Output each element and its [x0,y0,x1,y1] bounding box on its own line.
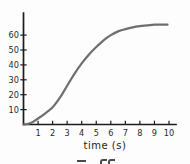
x-tick-label: 10 [164,128,174,138]
y-tick-label: 40 [9,60,19,70]
x-tick-label: 4 [79,128,84,138]
cropped-caption-fragment [77,160,86,162]
data-curve [24,25,168,125]
x-tick-label: 6 [108,128,113,138]
x-tick-label: 8 [137,128,142,138]
cropped-caption-fragment [100,159,107,164]
y-tick-label: 60 [9,30,19,40]
axes [24,13,177,125]
x-tick-label: 2 [50,128,55,138]
y-tick-label: 30 [9,75,19,85]
y-tick-label: 10 [9,105,19,115]
chart-figure: 12345678910102030405060 time (s) [0,0,190,164]
x-tick-label: 9 [152,128,157,138]
x-tick-label: 7 [123,128,128,138]
cropped-caption-fragment [108,159,115,164]
x-tick-label: 3 [65,128,70,138]
y-tick-label: 20 [9,90,19,100]
y-tick-label: 50 [9,45,19,55]
x-tick-label: 1 [35,128,40,138]
x-axis-title: time (s) [20,140,190,151]
x-tick-label: 5 [94,128,99,138]
